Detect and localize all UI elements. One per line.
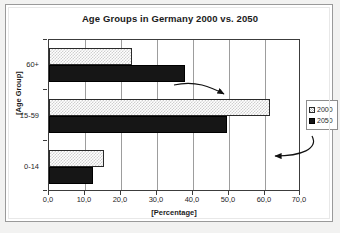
y-axis-labels: 60+ 15-59 0-14 — [6, 39, 46, 191]
legend-item-2000[interactable]: 2000 — [309, 104, 335, 115]
screenshot-root: Age Groups in Germany 2000 vs. 2050 [Age… — [0, 0, 340, 233]
legend-label-2000: 2000 — [317, 106, 333, 113]
x-axis-labels: 0,0 10,0 20,0 30,0 40,0 50,0 60,0 70,0 — [6, 195, 334, 207]
chart-legend[interactable]: 2000 2050 — [306, 100, 338, 130]
bar-15-59-2000[interactable] — [49, 99, 270, 116]
legend-swatch-2050-icon — [309, 118, 315, 124]
y-axis-tick — [43, 89, 47, 90]
bar-60plus-2050[interactable] — [49, 65, 185, 82]
x-axis-tick-label-30: 30,0 — [149, 195, 164, 204]
x-axis-tick-label-20: 20,0 — [113, 195, 128, 204]
bar-60plus-2000[interactable] — [49, 48, 132, 65]
bar-0-14-2050[interactable] — [49, 167, 93, 184]
plot-area — [48, 39, 300, 191]
x-axis-tick-label-10: 10,0 — [77, 195, 92, 204]
legend-swatch-2000-icon — [309, 107, 315, 113]
y-axis-tick — [43, 190, 47, 191]
chart-frame: Age Groups in Germany 2000 vs. 2050 [Age… — [5, 4, 333, 222]
legend-item-2050[interactable]: 2050 — [309, 115, 335, 126]
x-axis-tick-label-40: 40,0 — [185, 195, 200, 204]
bar-15-59-2050[interactable] — [49, 116, 227, 133]
x-axis-title: [Percentage] — [48, 208, 300, 217]
bar-0-14-2000[interactable] — [49, 150, 104, 167]
y-axis-tick-label-0-14: 0-14 — [24, 162, 39, 171]
x-axis-tick-label-70: 70,0 — [292, 195, 307, 204]
y-axis-tick — [43, 39, 47, 40]
chart-title: Age Groups in Germany 2000 vs. 2050 — [6, 13, 334, 24]
legend-label-2050: 2050 — [317, 117, 333, 124]
y-axis-tick-label-15-59: 15-59 — [20, 111, 39, 120]
x-axis-tick-label-50: 50,0 — [221, 195, 236, 204]
y-axis-tick — [43, 140, 47, 141]
bar-series-container — [49, 40, 299, 190]
y-axis-tick-label-60plus: 60+ — [26, 60, 39, 69]
x-axis-tick-label-0: 0,0 — [43, 195, 53, 204]
x-axis-tick-label-60: 60,0 — [257, 195, 272, 204]
